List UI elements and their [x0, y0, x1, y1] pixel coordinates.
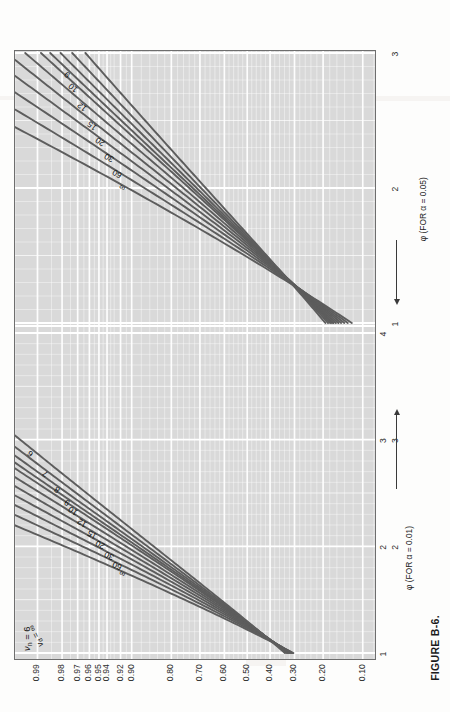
power-curve	[15, 525, 293, 653]
axis-direction-arrow-alpha01	[396, 414, 397, 489]
x-axis-tick-label-alpha01-left: 3	[390, 438, 400, 443]
y-axis-tick-label: 0.96	[83, 664, 93, 681]
y-axis-tick-label: 0.40	[264, 664, 274, 681]
x-axis-tick-label-alpha05: 3	[378, 438, 388, 443]
x-axis-tick-label-alpha01: 1	[390, 322, 400, 327]
x-axis-tick-label-alpha01: 3	[390, 52, 400, 57]
x-axis-title-alpha05: φ (FOR α = 0.05)	[418, 177, 428, 241]
x-axis-tick-label-alpha01: 2	[390, 187, 400, 192]
y-axis-tick-label: 0.92	[115, 664, 125, 681]
y-axis-tick-label: 0.94	[101, 664, 111, 681]
x-axis-title-alpha01: φ (FOR α = 0.01)	[404, 526, 414, 590]
plot-area: ∞6030201512109876∞6030201512109νd = ∞νn …	[14, 50, 376, 660]
y-axis-tick-label: 0.99	[31, 664, 41, 681]
y-axis-tick-label: 0.50	[241, 664, 251, 681]
y-axis-tick-label: 0.30	[288, 664, 298, 681]
x-axis-tick-label-alpha05: 2	[378, 545, 388, 550]
y-axis-tick-label: 0.60	[218, 664, 228, 681]
power-curves	[15, 50, 376, 659]
y-axis-tick-label: 0.80	[165, 664, 175, 681]
figure-caption: FIGURE B-6.	[422, 588, 448, 708]
x-axis-tick-label-alpha05: 4	[378, 332, 388, 337]
x-axis-tick-label-alpha05: 1	[378, 652, 388, 657]
axis-direction-arrow-alpha05	[396, 240, 397, 299]
y-axis-tick-label: 0.97	[72, 664, 82, 681]
y-axis-tick-label: 0.98	[56, 664, 66, 681]
y-axis-tick-label: 0.70	[194, 664, 204, 681]
figure-caption-text: FIGURE B-6.	[429, 615, 441, 681]
x-axis-zone: 123412323φ (FOR α = 0.01)φ (FOR α = 0.05…	[376, 50, 442, 660]
y-axis-tick-column: 0.990.980.970.960.950.940.920.900.800.70…	[14, 664, 376, 712]
x-axis-tick-label-alpha01-left: 2	[390, 545, 400, 550]
y-axis-tick-label: 0.20	[317, 664, 327, 681]
power-chart-figure: 0.990.980.970.960.950.940.920.900.800.70…	[0, 0, 450, 712]
y-axis-tick-label: 0.10	[357, 664, 367, 681]
power-curve	[85, 53, 325, 323]
y-axis-tick-label: 0.90	[126, 664, 136, 681]
